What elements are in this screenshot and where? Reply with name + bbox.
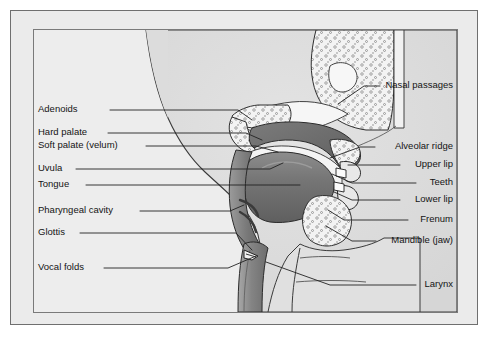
label-upper-lip: Upper lip	[415, 159, 453, 169]
label-frenum: Frenum	[420, 214, 453, 224]
label-lower-lip: Lower lip	[415, 194, 453, 204]
label-pharyngeal-cavity: Pharyngeal cavity	[38, 205, 113, 215]
label-uvula: Uvula	[38, 163, 62, 173]
label-larynx: Larynx	[424, 279, 453, 289]
label-glottis: Glottis	[38, 227, 65, 237]
label-hard-palate: Hard palate	[38, 127, 87, 137]
label-tongue: Tongue	[38, 179, 69, 189]
figure-inner-frame	[33, 29, 458, 313]
label-teeth: Teeth	[430, 177, 453, 187]
label-adenoids: Adenoids	[38, 104, 78, 114]
label-nasal-passages: Nasal passages	[385, 80, 453, 90]
label-mandible-jaw: Mandible (jaw)	[391, 235, 453, 245]
label-alveolar-ridge: Alveolar ridge	[395, 141, 453, 151]
label-vocal-folds: Vocal folds	[38, 262, 84, 272]
figure-root: AdenoidsHard palateSoft palate (velum)Uv…	[0, 0, 494, 343]
label-soft-palate: Soft palate (velum)	[38, 140, 118, 150]
